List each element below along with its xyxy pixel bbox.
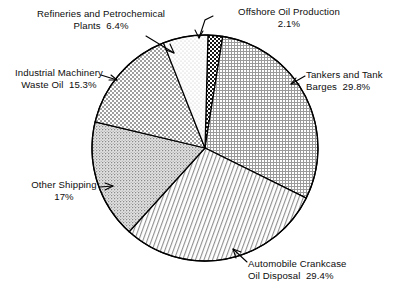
slice-label-offshore-oil-production: Offshore Oil Production 2.1% [214, 6, 364, 30]
slice-label-line2: Plants 6.4% [18, 20, 184, 32]
slice-label-line1: Automobile Crankcase [248, 258, 396, 270]
slice-label-line2: Waste Oil 15.3% [4, 79, 114, 91]
pie-slices [92, 35, 318, 261]
pie-chart-canvas [0, 0, 399, 294]
slice-label-automobile-crankcase-oil-disposal: Automobile Crankcase Oil Disposal 29.4% [248, 258, 396, 282]
slice-label-other-shipping: Other Shipping 17% [16, 179, 112, 203]
slice-label-line2: 17% [16, 191, 112, 203]
slice-label-line1: Other Shipping [16, 179, 112, 191]
slice-label-tankers-and-tank-barges: Tankers and Tank Barges 29.8% [306, 69, 399, 93]
slice-label-industrial-machinery-waste-oil: Industrial Machinery Waste Oil 15.3% [4, 67, 114, 91]
slice-label-line1: Refineries and Petrochemical [18, 8, 184, 20]
slice-label-line1: Tankers and Tank [306, 69, 399, 81]
slice-label-line2: Barges 29.8% [306, 81, 399, 93]
slice-label-refineries-and-petrochemical-plants: Refineries and Petrochemical Plants 6.4% [18, 8, 184, 32]
slice-label-line1: Industrial Machinery [4, 67, 114, 79]
pie-chart: Refineries and Petrochemical Plants 6.4%… [0, 0, 399, 294]
slice-label-line1: Offshore Oil Production [214, 6, 364, 18]
slice-label-line2: Oil Disposal 29.4% [248, 270, 396, 282]
slice-label-line2: 2.1% [214, 18, 364, 30]
